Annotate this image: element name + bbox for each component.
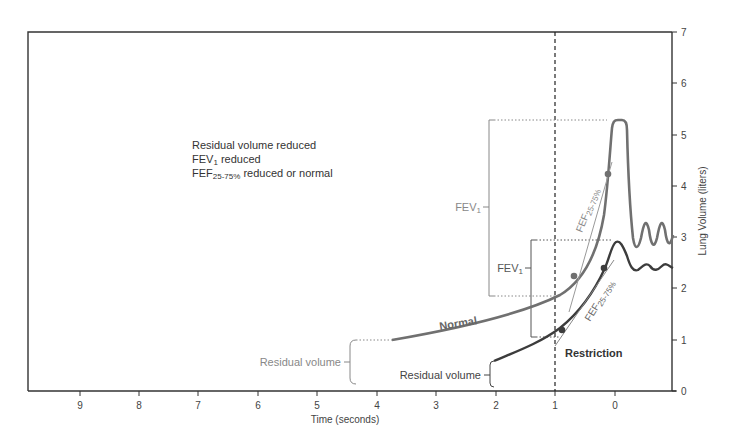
y-tick-label: 5 — [681, 130, 687, 141]
restriction-curve — [494, 242, 673, 361]
normal-fef-point-25 — [605, 171, 612, 178]
y-tick-label: 6 — [681, 78, 687, 89]
x-tick-label: 1 — [552, 400, 558, 411]
x-tick-label: 0 — [612, 400, 618, 411]
normal-residual-volume-bracket: Residual volume — [260, 340, 392, 384]
restriction-fef-label: FEF25-75% — [582, 278, 618, 324]
y-tick-label: 7 — [681, 27, 687, 38]
normal-curve — [392, 120, 673, 340]
x-tick-label: 5 — [314, 400, 320, 411]
y-tick-label: 2 — [681, 283, 687, 294]
note-residual-volume: Residual volume reduced — [192, 139, 316, 151]
normal-fev1-label: FEV1 — [455, 201, 481, 215]
y-axis-title: Lung Volume (liters) — [697, 167, 708, 256]
restriction-curve-label: Restriction — [565, 347, 623, 359]
x-tick-label: 7 — [195, 400, 201, 411]
normal-residual-volume-label: Residual volume — [260, 356, 341, 368]
normal-fef-point-75 — [571, 273, 578, 280]
normal-curve-label: Normal — [438, 314, 477, 332]
x-tick-labels: 9 8 7 6 5 4 3 2 1 0 — [77, 400, 618, 411]
y-tick-label: 3 — [681, 232, 687, 243]
y-tick-labels: 0 1 2 3 4 5 6 7 — [681, 27, 687, 397]
x-ticks — [80, 391, 615, 396]
x-tick-label: 6 — [255, 400, 261, 411]
x-tick-label: 9 — [77, 400, 83, 411]
x-tick-label: 2 — [493, 400, 499, 411]
note-fev1: FEV1 reduced — [192, 153, 261, 167]
notes-block: Residual volume reduced FEV1 reduced FEF… — [192, 139, 333, 181]
restriction-residual-volume-label: Residual volume — [400, 369, 481, 381]
x-tick-label: 4 — [374, 400, 380, 411]
x-axis-title: Time (seconds) — [311, 414, 380, 425]
y-ticks — [672, 32, 677, 391]
x-tick-label: 8 — [136, 400, 142, 411]
restriction-fef-point-25 — [601, 265, 608, 272]
x-tick-label: 3 — [433, 400, 439, 411]
spirometry-chart: 9 8 7 6 5 4 3 2 1 0 Time (seconds) 0 1 2… — [0, 0, 739, 446]
normal-fef-label: FEF25-75% — [574, 187, 603, 235]
restriction-residual-volume-bracket: Residual volume — [400, 361, 494, 387]
y-tick-label: 1 — [681, 335, 687, 346]
chart-frame — [28, 32, 672, 391]
y-tick-label: 4 — [681, 181, 687, 192]
restriction-fev1-label: FEV1 — [497, 262, 523, 276]
y-tick-label: 0 — [681, 386, 687, 397]
restriction-fef-point-75 — [559, 327, 566, 334]
note-fef: FEF25-75% reduced or normal — [192, 167, 333, 181]
